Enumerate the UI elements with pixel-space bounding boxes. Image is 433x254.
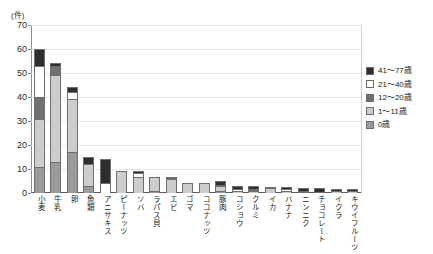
y-axis-tick-label: 50	[0, 69, 27, 78]
bar-column	[116, 171, 127, 193]
legend-item: 0歳	[366, 120, 412, 129]
bar-column	[298, 188, 309, 193]
bar-column	[50, 63, 61, 193]
x-axis-label: ピーナッツ	[117, 195, 127, 235]
bar-column	[166, 177, 177, 193]
legend-label: 1～11歳	[378, 107, 407, 116]
x-axis-label: ニンニク	[298, 195, 308, 227]
y-axis-tick-mark	[28, 193, 31, 194]
bar-segment	[347, 191, 358, 193]
bar-column	[133, 171, 144, 193]
x-axis-label: キウイフルーツ	[348, 195, 358, 251]
legend-swatch-icon	[366, 107, 374, 115]
x-axis-label: 小麦	[34, 195, 44, 211]
x-axis-label: バナナ	[282, 195, 292, 219]
bar-segment	[83, 157, 94, 164]
x-axis-labels: 小麦牛乳卵魚類アニサキスピーナッツソバラパス貝エビゴマココナッツ豚肉コショウクル…	[31, 195, 361, 254]
bar-column	[83, 157, 94, 193]
bar-segment	[331, 191, 342, 193]
bar-segment	[83, 186, 94, 193]
legend-swatch-icon	[366, 67, 374, 75]
legend-item: 1～11歳	[366, 107, 412, 116]
bar-segment	[34, 119, 45, 167]
bar-segment	[265, 188, 276, 193]
bar-segment	[34, 49, 45, 66]
bar-column	[199, 183, 210, 193]
bar-segment	[133, 177, 144, 193]
bar-column	[67, 87, 78, 193]
bar-column	[331, 189, 342, 193]
bar-segment	[166, 179, 177, 193]
bar-segment	[50, 66, 61, 76]
legend-label: 41～77歳	[378, 66, 412, 75]
bar-segment	[215, 191, 226, 193]
bar-segment	[100, 159, 111, 183]
x-axis-label: クルミ	[249, 195, 259, 219]
legend-label: 12～20歳	[378, 93, 412, 102]
x-axis-label: ソバ	[133, 195, 143, 211]
x-axis-label: ゴマ	[183, 195, 193, 211]
bar-segment	[248, 191, 259, 193]
bar-segment	[34, 66, 45, 97]
legend-swatch-icon	[366, 121, 374, 129]
y-axis-unit-label: (件)	[11, 11, 24, 20]
x-axis-label: チョコレート	[315, 195, 325, 243]
plot-area-right-border	[361, 25, 362, 193]
bar-column	[149, 177, 160, 193]
bar-segment	[298, 192, 309, 193]
y-axis-tick-label: 70	[0, 21, 27, 30]
bar-segment	[149, 177, 160, 190]
bar-segment	[149, 191, 160, 193]
y-axis-tick-label: 40	[0, 93, 27, 102]
y-axis-tick-label: 10	[0, 165, 27, 174]
bar-segment	[182, 183, 193, 193]
y-axis-tick-label: 0	[0, 189, 27, 198]
x-axis-label: ラパス貝	[150, 195, 160, 227]
x-axis-label: コショウ	[232, 195, 242, 227]
bar-column	[215, 181, 226, 193]
bar-segment	[50, 162, 61, 193]
bar-column	[34, 49, 45, 193]
bar-segment	[50, 75, 61, 161]
bar-column	[314, 188, 325, 193]
x-axis-label: エビ	[166, 195, 176, 211]
bar-segment	[232, 191, 243, 193]
bars-layer	[31, 25, 361, 193]
cropped-header-remnant	[0, 0, 433, 5]
legend: 41～77歳21～40歳12～20歳1～11歳0歳	[366, 66, 412, 129]
bar-column	[100, 159, 111, 193]
x-axis-label: ココナッツ	[199, 195, 209, 235]
bar-column	[248, 186, 259, 193]
bar-segment	[116, 171, 127, 193]
bar-column	[232, 186, 243, 193]
x-axis-label: 豚肉	[216, 195, 226, 211]
x-axis-label: アニサキス	[100, 195, 110, 235]
legend-label: 21～40歳	[378, 80, 412, 89]
legend-swatch-icon	[366, 94, 374, 102]
y-axis-tick-label: 20	[0, 141, 27, 150]
bar-segment	[100, 183, 111, 193]
x-axis-label: 卵	[67, 195, 77, 203]
bar-segment	[281, 191, 292, 193]
bar-segment	[199, 183, 210, 193]
bar-segment	[34, 167, 45, 193]
bar-column	[347, 189, 358, 193]
bar-column	[265, 187, 276, 193]
x-axis-label: 牛乳	[51, 195, 61, 211]
legend-swatch-icon	[366, 80, 374, 88]
bar-segment	[314, 192, 325, 193]
y-axis-tick-label: 30	[0, 117, 27, 126]
legend-label: 0歳	[378, 120, 390, 129]
bar-column	[281, 187, 292, 193]
legend-item: 12～20歳	[366, 93, 412, 102]
stacked-bar-chart: (件) 010203040506070 小麦牛乳卵魚類アニサキスピーナッツソバラ…	[0, 0, 433, 254]
bar-segment	[67, 99, 78, 152]
y-axis-tick-label: 60	[0, 45, 27, 54]
bar-segment	[67, 152, 78, 193]
legend-item: 41～77歳	[366, 66, 412, 75]
bar-segment	[67, 92, 78, 99]
legend-item: 21～40歳	[366, 80, 412, 89]
x-axis-label: 魚類	[84, 195, 94, 211]
x-axis-label: イクラ	[331, 195, 341, 219]
bar-segment	[34, 97, 45, 119]
